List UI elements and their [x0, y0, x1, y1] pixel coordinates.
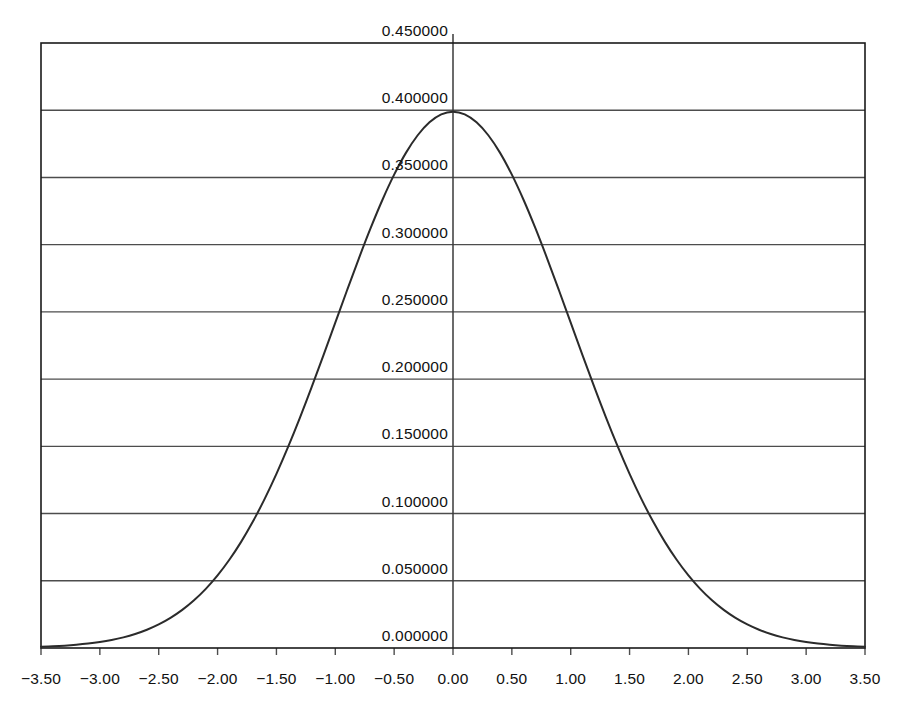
x-axis-tick-label: −1.00 [315, 670, 355, 688]
x-axis-tick-label: 2.50 [732, 670, 763, 688]
chart-container: 0.0000000.0500000.1000000.1500000.200000… [0, 0, 908, 712]
x-axis-tick-label: −0.50 [374, 670, 414, 688]
x-axis-tick-label: 1.00 [555, 670, 586, 688]
x-axis-tick-label: 2.00 [673, 670, 704, 688]
x-axis-tick-label: −3.00 [80, 670, 120, 688]
y-axis-tick-label: 0.350000 [382, 156, 448, 174]
x-axis-tick-label: 1.50 [614, 670, 645, 688]
y-axis-tick-label: 0.200000 [382, 358, 448, 376]
y-axis-tick-label: 0.050000 [382, 560, 448, 578]
x-axis-tick-label: 3.50 [850, 670, 881, 688]
normal-distribution-plot [0, 0, 908, 712]
x-axis-tick-label: −2.00 [197, 670, 237, 688]
y-axis-tick-label: 0.300000 [382, 224, 448, 242]
x-axis-tick-label: 0.00 [438, 670, 469, 688]
y-axis-tick-label: 0.000000 [382, 627, 448, 645]
y-axis-tick-label: 0.400000 [382, 89, 448, 107]
y-axis-tick-label: 0.250000 [382, 291, 448, 309]
y-axis-tick-label: 0.100000 [382, 493, 448, 511]
x-axis-tick-label: −2.50 [139, 670, 179, 688]
y-axis-tick-label: 0.150000 [382, 425, 448, 443]
x-axis-ticks-group [41, 648, 865, 655]
x-axis-tick-label: 3.00 [791, 670, 822, 688]
x-axis-tick-label: −3.50 [21, 670, 61, 688]
y-axis-tick-label: 0.450000 [382, 22, 448, 40]
x-axis-tick-label: −1.50 [256, 670, 296, 688]
x-axis-tick-label: 0.50 [496, 670, 527, 688]
